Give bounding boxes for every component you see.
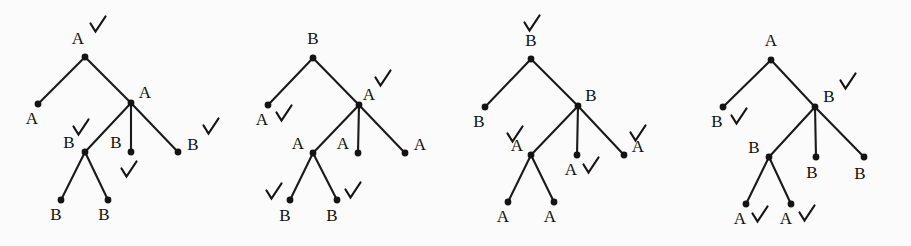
node-label: B bbox=[98, 205, 109, 224]
node-dot bbox=[82, 149, 89, 156]
node-label: B bbox=[63, 133, 74, 152]
tree-edge bbox=[815, 107, 864, 157]
tree-edge bbox=[769, 107, 815, 157]
node-label: B bbox=[806, 163, 817, 182]
tree-node: A bbox=[621, 126, 646, 159]
node-label: A bbox=[544, 207, 557, 226]
tree-node: A bbox=[565, 152, 599, 179]
node-label: B bbox=[50, 205, 61, 224]
tree-node: A bbox=[292, 134, 317, 156]
node-label: A bbox=[765, 31, 778, 50]
checkmark-icon bbox=[277, 106, 292, 121]
node-dot bbox=[35, 101, 42, 108]
node-dot bbox=[105, 197, 112, 204]
tree-node: A bbox=[356, 71, 391, 109]
node-dot bbox=[265, 102, 272, 109]
node-dot bbox=[355, 150, 362, 157]
tree-edge bbox=[268, 58, 313, 105]
node-label: A bbox=[780, 209, 793, 228]
node-dot bbox=[402, 150, 409, 157]
tree-4: ABBBBBAA bbox=[711, 31, 867, 228]
tree-node: A bbox=[402, 135, 427, 156]
checkmark-icon bbox=[800, 206, 815, 221]
node-dot bbox=[788, 201, 795, 208]
tree-node: B bbox=[175, 119, 219, 156]
tree-node: B bbox=[98, 197, 111, 224]
node-dot bbox=[82, 54, 89, 61]
tree-edge bbox=[85, 57, 131, 103]
node-label: A bbox=[497, 207, 510, 226]
node-dot bbox=[58, 197, 65, 204]
tree-edge bbox=[531, 59, 578, 106]
checkmark-icon bbox=[525, 16, 540, 31]
node-dot bbox=[766, 154, 773, 161]
tree-node: B bbox=[806, 154, 819, 182]
node-label: B bbox=[854, 164, 865, 183]
node-label: B bbox=[326, 206, 337, 225]
node-dot bbox=[551, 199, 558, 206]
node-dot bbox=[621, 152, 628, 159]
tree-node: B bbox=[854, 154, 867, 183]
tree-edge bbox=[359, 105, 405, 153]
tree-edge bbox=[131, 103, 178, 152]
tree-node: B bbox=[110, 133, 136, 177]
tree-edge bbox=[38, 57, 85, 104]
node-dot bbox=[505, 199, 512, 206]
tree-edge bbox=[578, 106, 624, 155]
node-label: B bbox=[748, 138, 759, 157]
tree-edge bbox=[313, 58, 359, 105]
tree-node: A bbox=[497, 199, 512, 226]
checkmark-icon bbox=[122, 162, 137, 177]
tree-3: BBBAAAAA bbox=[473, 16, 645, 227]
tree-node: B bbox=[63, 120, 88, 156]
tree-edge bbox=[290, 153, 313, 200]
tree-3-edges bbox=[485, 59, 624, 202]
node-label: A bbox=[565, 160, 578, 179]
tree-edge bbox=[85, 103, 131, 152]
node-label: A bbox=[139, 83, 152, 102]
node-dot bbox=[743, 201, 750, 208]
node-label: A bbox=[363, 85, 376, 104]
node-label: B bbox=[473, 112, 484, 131]
node-label: B bbox=[585, 86, 596, 105]
node-dot bbox=[356, 102, 363, 109]
node-label: A bbox=[292, 134, 305, 153]
node-dot bbox=[310, 150, 317, 157]
node-label: A bbox=[511, 136, 524, 155]
node-dot bbox=[768, 57, 775, 64]
checkmark-icon bbox=[584, 158, 599, 173]
node-dot bbox=[482, 104, 489, 111]
tree-node: B bbox=[525, 16, 540, 63]
tree-node: B bbox=[575, 86, 597, 109]
tree-edge bbox=[531, 155, 554, 202]
node-dot bbox=[334, 197, 341, 204]
tree-diagram-figure: AAABBBBBBAAAAABBBBBAAAAAABBBBBAA bbox=[0, 0, 911, 246]
tree-edge bbox=[508, 155, 531, 202]
tree-node: B bbox=[50, 197, 64, 224]
tree-node: A bbox=[508, 127, 535, 159]
tree-edge bbox=[723, 60, 771, 107]
node-label: A bbox=[734, 209, 747, 228]
checkmark-icon bbox=[91, 17, 106, 32]
node-label: B bbox=[711, 112, 722, 131]
tree-node: B bbox=[812, 74, 856, 111]
node-dot bbox=[812, 104, 819, 111]
checkmark-icon bbox=[267, 184, 282, 199]
node-label: A bbox=[72, 29, 85, 48]
tree-node: B bbox=[473, 104, 488, 131]
node-dot bbox=[175, 149, 182, 156]
tree-node: B bbox=[711, 104, 746, 131]
node-dot bbox=[575, 103, 582, 110]
tree-node: A bbox=[544, 199, 558, 226]
tree-edge bbox=[769, 157, 791, 204]
tree-node: B bbox=[307, 29, 318, 61]
node-label: B bbox=[110, 133, 121, 152]
tree-1-edges bbox=[38, 57, 178, 200]
tree-node: A bbox=[780, 201, 815, 228]
checkmark-icon bbox=[841, 74, 856, 89]
tree-edge bbox=[61, 152, 85, 200]
node-dot bbox=[528, 152, 535, 159]
tree-node: B bbox=[748, 138, 772, 160]
tree-node: A bbox=[26, 101, 42, 128]
node-label: B bbox=[187, 135, 198, 154]
